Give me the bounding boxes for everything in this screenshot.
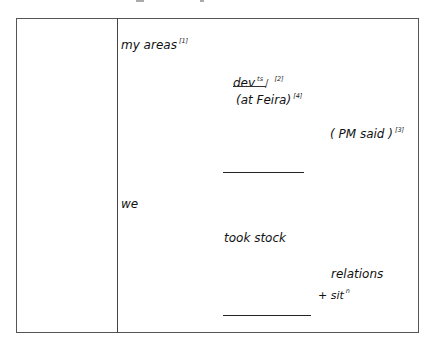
superscript: n bbox=[346, 287, 350, 295]
note-my-areas: my areas[1] bbox=[121, 34, 188, 52]
note-text: we bbox=[121, 197, 138, 211]
slash: / bbox=[265, 78, 268, 89]
footnote-ref: [2] bbox=[274, 75, 283, 83]
column-divider bbox=[117, 18, 118, 333]
note-relations: relations bbox=[331, 267, 383, 281]
note-we: we bbox=[121, 197, 138, 211]
separator-line bbox=[223, 172, 304, 173]
note-pm-said: ( PM said )[3] bbox=[330, 123, 404, 141]
note-text: + sit bbox=[318, 289, 344, 302]
cropped-text-fragment bbox=[136, 0, 144, 2]
footnote-ref: [3] bbox=[395, 126, 404, 134]
note-text: (at Feira) bbox=[236, 93, 291, 107]
note-text: took stock bbox=[224, 231, 286, 245]
fraction-line bbox=[233, 86, 266, 87]
footnote-ref: [1] bbox=[179, 37, 188, 45]
note-text: dev bbox=[233, 76, 255, 90]
cropped-text-fragment bbox=[200, 0, 204, 2]
note-at-feira: (at Feira)[4] bbox=[236, 89, 302, 107]
note-text: my areas bbox=[121, 38, 177, 52]
separator-line bbox=[223, 315, 311, 316]
note-text: relations bbox=[331, 267, 383, 281]
note-took-stock: took stock bbox=[224, 231, 286, 245]
notes-table bbox=[16, 18, 419, 333]
footnote-ref: [4] bbox=[293, 92, 302, 100]
superscript: ts bbox=[257, 75, 263, 83]
note-text: ( PM said ) bbox=[330, 127, 393, 141]
note-sit: + sitn bbox=[318, 284, 350, 303]
